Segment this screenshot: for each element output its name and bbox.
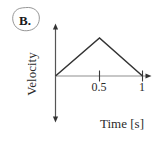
x-axis-label: Time [s] [82, 116, 162, 132]
y-axis [53, 24, 58, 123]
y-axis-label: Velocity [24, 30, 40, 118]
x-axis [56, 73, 152, 78]
x-tick-label-1: 1 [129, 80, 155, 95]
x-tick-label-0: 0.5 [82, 80, 116, 95]
velocity-series-line [56, 38, 143, 76]
velocity-time-figure: B. Velocity Time [s] 0.5 1 [0, 0, 164, 148]
